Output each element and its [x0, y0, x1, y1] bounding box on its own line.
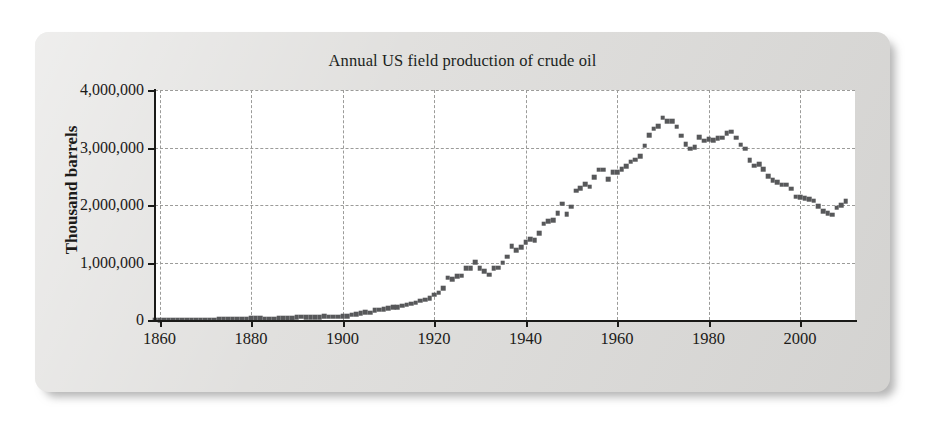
gridline-horizontal — [155, 263, 855, 264]
data-point — [555, 211, 560, 216]
y-axis-title: Thousand barrels — [62, 95, 82, 285]
data-point — [743, 146, 748, 151]
gridline-horizontal — [155, 205, 855, 206]
data-point — [624, 164, 629, 169]
x-tick-mark — [160, 320, 162, 327]
plot-area: 01,000,0002,000,0003,000,0004,000,000 18… — [155, 90, 855, 320]
y-tick-label: 1,000,000 — [80, 254, 144, 272]
data-point — [505, 254, 510, 259]
x-tick-label: 1860 — [143, 329, 176, 349]
data-point — [601, 167, 606, 172]
data-point — [642, 144, 647, 149]
data-point — [473, 260, 478, 265]
data-point — [679, 134, 684, 139]
data-point — [729, 129, 734, 134]
data-point — [519, 245, 524, 250]
data-point — [560, 202, 565, 207]
data-point — [459, 273, 464, 278]
y-tick-label: 2,000,000 — [80, 196, 144, 214]
data-point — [587, 185, 592, 190]
data-point — [816, 204, 821, 209]
y-tick-label: 3,000,000 — [80, 139, 144, 157]
gridline-vertical — [434, 90, 435, 320]
data-point — [606, 177, 611, 182]
data-point — [468, 266, 473, 271]
data-point — [693, 145, 698, 150]
data-point — [761, 167, 766, 172]
data-point — [674, 124, 679, 129]
x-tick-mark — [343, 320, 345, 327]
data-point — [830, 212, 835, 217]
x-tick-label: 2000 — [784, 329, 817, 349]
x-tick-label: 1980 — [692, 329, 725, 349]
gridline-vertical — [617, 90, 618, 320]
data-point — [569, 204, 574, 209]
gridline-vertical — [251, 90, 252, 320]
x-tick-label: 1960 — [601, 329, 634, 349]
data-point — [812, 198, 817, 203]
data-point — [638, 154, 643, 159]
data-point — [496, 265, 501, 270]
data-point — [500, 260, 505, 265]
data-point — [720, 135, 725, 140]
gridline-horizontal — [155, 148, 855, 149]
gridline-vertical — [526, 90, 527, 320]
gridline-vertical — [800, 90, 801, 320]
data-point — [436, 291, 441, 296]
x-axis-line — [153, 320, 857, 322]
x-tick-mark — [709, 320, 711, 327]
gridline-vertical — [709, 90, 710, 320]
y-tick-mark — [148, 148, 155, 150]
data-point — [734, 136, 739, 141]
data-point — [647, 133, 652, 138]
x-tick-mark — [526, 320, 528, 327]
chart-title: Annual US field production of crude oil — [35, 51, 890, 71]
data-point — [592, 175, 597, 180]
x-tick-label: 1920 — [418, 329, 451, 349]
data-point — [487, 273, 492, 278]
x-tick-mark — [800, 320, 802, 327]
x-tick-label: 1940 — [509, 329, 542, 349]
figure-card: Annual US field production of crude oil … — [35, 32, 890, 392]
y-tick-mark — [148, 205, 155, 207]
y-tick-mark — [148, 320, 155, 322]
data-point — [747, 158, 752, 163]
data-point — [656, 124, 661, 129]
data-point — [564, 212, 569, 217]
y-tick-mark — [148, 263, 155, 265]
gridline-horizontal — [155, 90, 855, 91]
y-tick-label: 0 — [136, 311, 144, 329]
x-tick-mark — [251, 320, 253, 327]
x-tick-label: 1900 — [326, 329, 359, 349]
data-point — [789, 186, 794, 191]
data-point — [441, 286, 446, 291]
data-point — [537, 231, 542, 236]
gridline-vertical — [160, 90, 161, 320]
y-tick-mark — [148, 90, 155, 92]
data-point — [551, 218, 556, 223]
x-tick-label: 1880 — [235, 329, 268, 349]
data-point — [670, 119, 675, 124]
x-tick-mark — [617, 320, 619, 327]
data-point — [844, 199, 849, 204]
gridline-vertical — [343, 90, 344, 320]
plot-inner: 01,000,0002,000,0003,000,0004,000,000 18… — [155, 90, 855, 320]
y-tick-label: 4,000,000 — [80, 81, 144, 99]
data-point — [532, 238, 537, 243]
x-tick-mark — [434, 320, 436, 327]
